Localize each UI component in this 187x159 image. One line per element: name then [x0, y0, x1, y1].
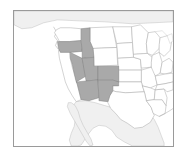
state-washington	[54, 28, 81, 42]
us-choropleth-map[interactable]	[14, 11, 173, 146]
state-kansas	[119, 70, 142, 82]
state-colorado	[98, 66, 119, 82]
state-indiana	[160, 58, 173, 74]
state-minnesota	[132, 25, 149, 55]
state-montana	[90, 27, 117, 49]
state-north-dakota	[113, 27, 133, 44]
state-nebraska	[118, 57, 142, 70]
map-plot-frame	[13, 10, 174, 147]
region-canada	[14, 11, 173, 29]
state-oregon	[57, 41, 82, 53]
state-wyoming	[93, 47, 118, 66]
map-figure	[0, 0, 187, 159]
state-south-dakota	[117, 43, 134, 59]
